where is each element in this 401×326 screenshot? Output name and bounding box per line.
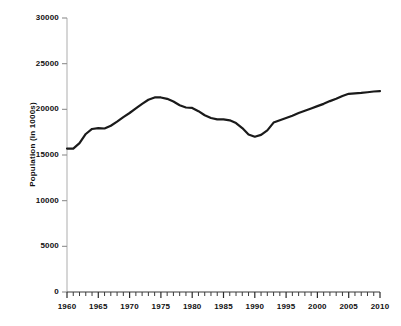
y-axis-ticks: [62, 18, 67, 292]
axis-lines: [67, 18, 380, 292]
line-chart-plot: [0, 0, 401, 326]
data-series-line: [67, 91, 380, 149]
chart-page: Population (in 1000s) 050001000015000200…: [0, 0, 401, 326]
x-axis-major-ticks: [67, 292, 380, 298]
